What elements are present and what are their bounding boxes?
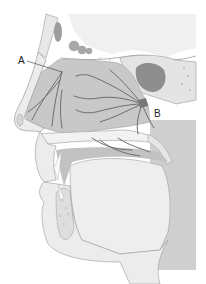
label-a: A: [18, 56, 25, 66]
frontal-sinus: [54, 22, 62, 42]
nasal-cavity-diagram: [0, 0, 206, 284]
hard-palate: [40, 130, 150, 144]
nostril: [17, 114, 23, 126]
tongue: [70, 159, 170, 255]
label-b: B: [154, 109, 161, 119]
